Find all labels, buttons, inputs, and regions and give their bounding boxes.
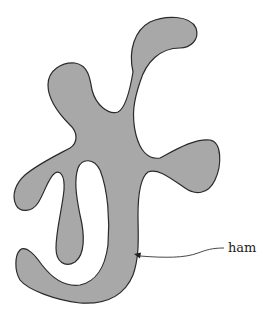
ham-label: ham — [228, 240, 256, 255]
leader-line — [140, 248, 224, 257]
ham-callout: ham — [134, 240, 256, 259]
ham-diagram: ham — [0, 0, 267, 319]
ham-region — [14, 17, 220, 303]
ham-shape — [14, 17, 220, 303]
